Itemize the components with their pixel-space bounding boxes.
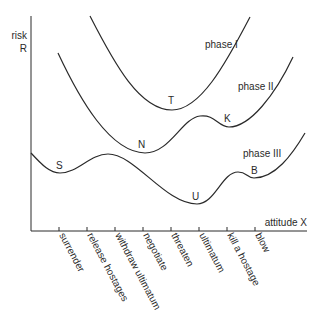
tick-label: ultimatum [197,231,227,274]
risk-attitude-diagram: risk R attitude X surrender release host… [0,0,323,318]
tick-label: threaten [169,231,196,269]
phase-3-curve [31,133,305,204]
phase-2-curve [58,53,293,153]
x-ticks [59,227,255,231]
point-label-b: B [251,165,258,176]
x-tick-labels: surrender release hostages withdraw ulti… [57,230,273,312]
tick-label: negotiate [141,231,170,273]
y-axis-label-r: R [20,43,27,54]
phase-3-label: phase III [243,148,281,159]
phase-1-label: phase I [205,39,238,50]
y-axis-label-risk: risk [11,30,28,41]
tick-label: blow [253,231,273,255]
point-label-s: S [56,160,63,171]
tick-label: surrender [57,231,87,275]
phase-2-label: phase II [238,81,274,92]
point-label-n: N [138,139,145,150]
point-label-t: T [168,95,174,106]
x-axis-label: attitude X [265,217,308,228]
point-label-k: K [224,113,231,124]
point-label-u: U [192,191,199,202]
